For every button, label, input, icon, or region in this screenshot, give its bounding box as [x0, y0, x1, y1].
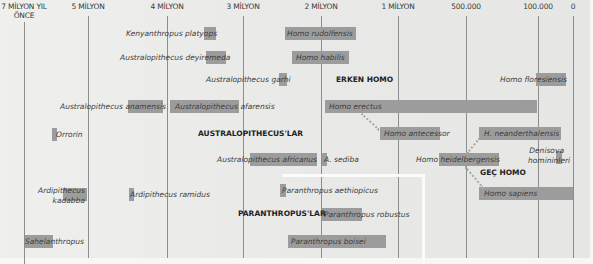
label-homo-antecessor: Homo antecessor [384, 127, 450, 140]
tick-label-sub: ÖNCE [1, 11, 47, 20]
tick-0: 0 [571, 2, 576, 11]
tick-100k: 100.000 [523, 2, 553, 11]
gridline-5m [88, 16, 89, 258]
label-australopithecus-garhi: Australopithecus garhi [206, 73, 291, 86]
label-australopithecus-africanus: Australopithecus africanus [217, 153, 317, 166]
label-paranthropus-aethiopicus: Paranthropus aethiopicus [282, 184, 378, 197]
tick-2-million: 2 MİLYON [304, 2, 337, 11]
tick-1-million: 1 MİLYON [381, 2, 414, 11]
evolution-timeline-diagram: 7 MİLYON YIL ÖNCE 5 MİLYON 4 MİLYON 3 Mİ… [0, 0, 593, 264]
group-australopithecines: AUSTRALOPITHECUS'LAR [198, 127, 303, 140]
gridline-500k [466, 16, 467, 258]
gridline-7m [24, 22, 25, 264]
label-homo-floresiensis: Homo floresiensis [500, 73, 567, 86]
label-sahelanthropus: Sahelanthropus [25, 235, 84, 248]
label-ardipithecus-kadabba: Ardipithecus kadabba [30, 186, 85, 206]
label-homo-rudolfensis: Homo rudolfensis [287, 27, 353, 40]
tick-7-million: 7 MİLYON YIL ÖNCE [1, 2, 47, 20]
label-denisova-line2: homininleri [528, 156, 564, 166]
label-australopithecus-anamensis: Australopithecus anamensis [60, 100, 166, 113]
label-kadabba-line1: Ardipithecus [30, 186, 85, 196]
label-a-sediba: A. sediba [324, 153, 359, 166]
tick-500k: 500.000 [451, 2, 481, 11]
label-paranthropus-boisei: Paranthropus boisei [291, 235, 366, 248]
group-paranthropines: PARANTHROPUS'LAR [238, 207, 326, 220]
label-homo-heidelbergensis: Homo heidelbergensis [416, 153, 500, 166]
tick-label: 7 MİLYON YIL [1, 2, 47, 11]
label-orrorin: Orrorin [56, 128, 83, 141]
label-australopithecus-deyiremeda: Australopithecus deyiremeda [120, 51, 230, 64]
label-homo-habilis: Homo habilis [296, 51, 345, 64]
gridline-0 [573, 16, 574, 258]
tick-5-million: 5 MİLYON [71, 2, 104, 11]
group-early-homo: ERKEN HOMO [336, 73, 393, 86]
label-kadabba-line2: kadabba [30, 196, 85, 206]
tick-3-million: 3 MİLYON [226, 2, 259, 11]
label-kenyanthropus-platyops: Kenyanthropus platyops [126, 27, 217, 40]
label-denisova-homininleri: Denisova homininleri [528, 146, 564, 166]
label-h-neanderthalensis: H. neanderthalensis [484, 127, 559, 140]
label-ardipithecus-ramidus: Ardipithecus ramidus [130, 188, 210, 201]
label-paranthropus-robustus: Paranthropus robustus [324, 208, 409, 221]
label-homo-sapiens: Homo sapiens [484, 187, 537, 200]
label-homo-erectus: Homo erectus [329, 100, 382, 113]
label-denisova-line1: Denisova [528, 146, 564, 156]
tick-4-million: 4 MİLYON [150, 2, 183, 11]
label-australopithecus-afarensis: Australopithecus afarensis [175, 100, 275, 113]
group-late-homo: GEÇ HOMO [480, 166, 526, 179]
